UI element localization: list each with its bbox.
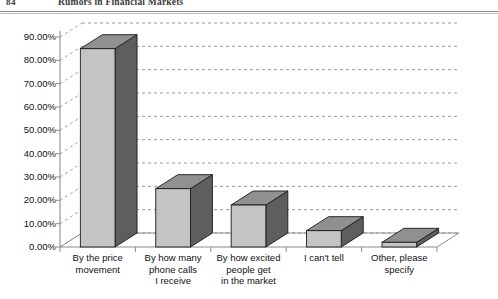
y-tick-label-90: 90.00% (8, 32, 56, 42)
y-depth-leader-90 (60, 23, 82, 37)
x-label-2-line-1: people get (205, 264, 292, 276)
x-label-3-line-0: I can't tell (280, 252, 367, 264)
y-tick-label-40: 40.00% (8, 149, 56, 159)
x-label-4-line-1: specify (356, 264, 443, 276)
bar-0-side-face (115, 35, 137, 247)
y-depth-leader-80 (60, 46, 82, 60)
x-label-1-line-1: phone calls (129, 264, 216, 276)
x-category-label-4: Other, pleasespecify (356, 252, 443, 275)
x-category-label-0: By the pricemovement (54, 252, 141, 275)
x-axis-category-labels: By the pricemovementBy how manyphone cal… (0, 252, 498, 299)
y-depth-leader-40 (60, 140, 82, 154)
bar-2-front-face (231, 205, 266, 247)
bar-0 (80, 35, 137, 247)
bar-3-front-face (307, 231, 342, 247)
bar-0-front-face (80, 49, 115, 247)
header-divider-rule-secondary (0, 13, 498, 14)
y-depth-leader-20 (60, 186, 82, 200)
x-label-4-line-0: Other, please (356, 252, 443, 264)
x-category-label-3: I can't tell (280, 252, 367, 264)
x-label-2-line-0: By how excited (205, 252, 292, 264)
x-label-0-line-1: movement (54, 264, 141, 276)
bar-4-front-face (382, 242, 417, 247)
x-label-0-line-0: By the price (54, 252, 141, 264)
bar-4 (382, 228, 439, 247)
page-running-title: Rumors in Financial Markets (58, 0, 183, 7)
y-depth-leader-10 (60, 210, 82, 224)
y-depth-leader-30 (60, 163, 82, 177)
header-divider-rule (0, 11, 498, 12)
y-depth-leader-50 (60, 116, 82, 130)
bar-3 (307, 217, 364, 247)
x-category-label-1: By how manyphone callsI receive (129, 252, 216, 287)
y-tick-label-30: 30.00% (8, 172, 56, 182)
floor-right-edge (437, 233, 459, 247)
x-label-2-line-2: in the market (205, 275, 292, 287)
bar-2 (231, 191, 288, 247)
y-tick-label-10: 10.00% (8, 219, 56, 229)
bar-1-front-face (156, 189, 191, 247)
x-category-label-2: By how excitedpeople getin the market (205, 252, 292, 287)
x-label-1-line-0: By how many (129, 252, 216, 264)
bar-chart: 90.00%80.00%70.00%60.00%50.00%40.00%30.0… (0, 16, 498, 299)
y-tick-label-80: 80.00% (8, 55, 56, 65)
x-label-1-line-2: I receive (129, 275, 216, 287)
page-folio-number: 84 (6, 0, 16, 7)
y-tick-label-0: 0.00% (8, 242, 56, 252)
y-depth-leader-60 (60, 93, 82, 107)
y-tick-label-60: 60.00% (8, 102, 56, 112)
y-depth-leader-70 (60, 70, 82, 84)
y-tick-label-70: 70.00% (8, 79, 56, 89)
y-tick-label-50: 50.00% (8, 125, 56, 135)
y-tick-label-20: 20.00% (8, 195, 56, 205)
bar-1 (156, 175, 213, 247)
